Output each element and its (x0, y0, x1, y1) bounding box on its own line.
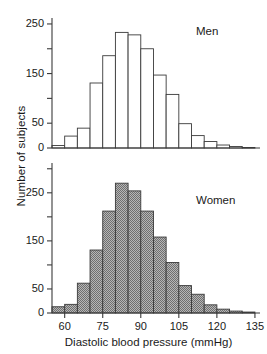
histogram-bar (179, 286, 192, 313)
figure-root: Number of subjects 050150250Men 05015025… (0, 0, 267, 354)
histogram-bar (217, 309, 230, 313)
histogram-bar (77, 283, 90, 313)
y-axis-tick-label: 150 (26, 234, 44, 246)
x-axis-tick-label: 135 (235, 320, 267, 332)
histogram-bar (204, 305, 217, 313)
histogram-bar (141, 211, 154, 313)
women-chart (0, 0, 267, 354)
y-axis-tick-label: 250 (26, 186, 44, 198)
histogram-bar (166, 263, 179, 313)
x-axis-label: Diastolic blood pressure (mmHg) (30, 336, 267, 348)
histogram-bar (90, 250, 103, 313)
y-axis-tick-label: 50 (32, 282, 44, 294)
y-axis-tick-label: 0 (38, 306, 44, 318)
series-label-women: Women (196, 194, 235, 206)
histogram-bar (103, 211, 116, 313)
histogram-bar (153, 237, 166, 313)
x-axis-tick-label: 75 (83, 320, 123, 332)
x-axis-tick-label: 90 (121, 320, 161, 332)
histogram-bar (128, 191, 141, 313)
x-axis-tick-label: 105 (159, 320, 199, 332)
x-axis-tick-label: 60 (45, 320, 85, 332)
histogram-bar (65, 304, 78, 313)
histogram-bar (52, 307, 65, 313)
histogram-bar (192, 294, 205, 313)
histogram-bar (115, 183, 128, 313)
x-axis-tick-label: 120 (197, 320, 237, 332)
